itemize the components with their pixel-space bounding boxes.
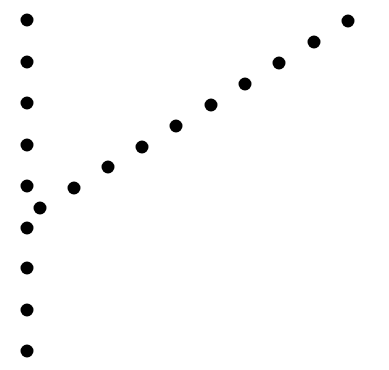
column-dot [21, 304, 34, 317]
diagonal-dot [68, 182, 81, 195]
column-dot [21, 180, 34, 193]
column-dot [21, 345, 34, 358]
column-dot [21, 56, 34, 69]
diagonal-dot [136, 141, 149, 154]
column-dot [21, 97, 34, 110]
column-dot [21, 139, 34, 152]
diagonal-dot [102, 161, 115, 174]
dot-diagram [0, 0, 389, 370]
column-dot [21, 14, 34, 27]
column-dot [21, 222, 34, 235]
diagonal-dot [342, 15, 355, 28]
diagonal-dot [239, 78, 252, 91]
diagonal-dot [34, 202, 47, 215]
diagonal-dot [273, 57, 286, 70]
column-dot [21, 262, 34, 275]
diagonal-dot [308, 36, 321, 49]
diagonal-dot [205, 99, 218, 112]
diagonal-dot [170, 120, 183, 133]
